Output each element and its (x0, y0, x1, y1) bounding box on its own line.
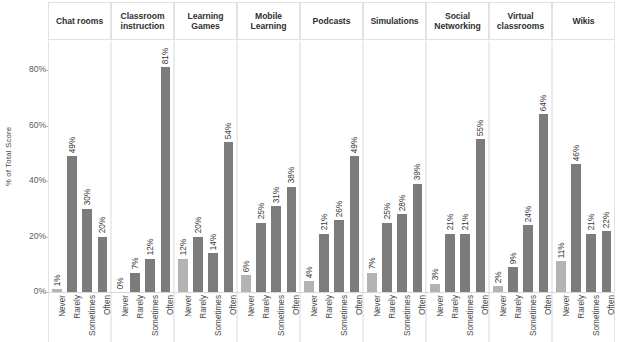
x-tick-slot: Sometimes (584, 292, 599, 342)
x-tick-slot: Rarely (379, 292, 394, 342)
bar-group: 11%46%21%22% (553, 41, 614, 292)
bar[interactable]: 7% (367, 273, 377, 292)
x-tick-slot: Never (238, 292, 253, 342)
bar[interactable]: 81% (161, 67, 171, 292)
bar[interactable]: 6% (241, 275, 251, 292)
bar[interactable]: 64% (539, 114, 549, 292)
bar-slot: 7% (364, 41, 379, 292)
bar[interactable]: 3% (430, 284, 440, 292)
bar[interactable]: 25% (256, 223, 266, 292)
y-tick-label: 40% (0, 176, 46, 185)
bar-value-label: 9% (509, 252, 517, 264)
bar-slot: 25% (379, 41, 394, 292)
bar-group: 4%21%26%49% (301, 41, 362, 292)
facet-panel: Mobile Learning6%25%31%38%NeverRarelySom… (237, 0, 300, 342)
bar[interactable]: 14% (208, 253, 218, 292)
bar[interactable]: 9% (508, 267, 518, 292)
bar[interactable]: 20% (193, 237, 203, 293)
bar[interactable]: 54% (224, 142, 234, 292)
bar-value-label: 21% (587, 214, 595, 231)
bar[interactable]: 21% (460, 234, 470, 292)
bar[interactable]: 30% (82, 209, 92, 292)
bar-slot: 9% (505, 41, 520, 292)
bar-value-label: 30% (83, 189, 91, 206)
facet-panel: Chat rooms1%49%30%20%NeverRarelySometime… (48, 0, 111, 342)
bar-value-label: 31% (272, 186, 280, 203)
bar[interactable]: 21% (445, 234, 455, 292)
x-tick-slot: Sometimes (80, 292, 95, 342)
bar[interactable]: 22% (602, 231, 612, 292)
x-tick-slot: Never (553, 292, 568, 342)
bar[interactable]: 24% (523, 225, 533, 292)
bar-slot: 12% (175, 41, 190, 292)
bar[interactable]: 7% (130, 273, 140, 292)
facet-panel-title: Learning Games (176, 11, 235, 32)
bar[interactable]: 4% (304, 281, 314, 292)
facet-panel-header: Simulations (363, 2, 426, 40)
facet-panel-title: Wikis (572, 16, 594, 26)
x-axis-baseline (48, 292, 615, 293)
bar-slot: 54% (221, 41, 236, 292)
x-tick-slot: Often (599, 292, 614, 342)
bar[interactable]: 12% (145, 259, 155, 292)
x-tick-slot: Never (490, 292, 505, 342)
y-tick-label: 80% (0, 65, 46, 74)
x-tick-slot: Rarely (253, 292, 268, 342)
facet-panel-title: Social Networking (428, 11, 487, 32)
bar-value-label: 25% (383, 203, 391, 220)
bar-slot: 30% (80, 41, 95, 292)
bar[interactable]: 25% (382, 223, 392, 292)
bar[interactable]: 21% (319, 234, 329, 292)
faceted-bar-chart: % of Total Score 0%20%40%60%80% Chat roo… (0, 0, 617, 342)
bar[interactable]: 31% (271, 206, 281, 292)
bar-value-label: 46% (572, 145, 580, 162)
bar[interactable]: 55% (476, 139, 486, 292)
y-axis: % of Total Score 0%20%40%60%80% (0, 0, 46, 342)
bar-value-label: 54% (224, 123, 232, 140)
bar-value-label: 22% (602, 211, 610, 228)
bar-value-label: 21% (320, 214, 328, 231)
bar-slot: 49% (64, 41, 79, 292)
bar-value-label: 14% (209, 234, 217, 251)
bar[interactable]: 12% (178, 259, 188, 292)
x-tick-labels: NeverRarelySometimesOften (490, 292, 551, 342)
bar-group: 12%20%14%54% (175, 41, 236, 292)
facet-plot-area: 2%9%24%64%NeverRarelySometimesOften (489, 41, 552, 342)
x-tick-slot: Rarely (190, 292, 205, 342)
facet-panel: Simulations7%25%28%39%NeverRarelySometim… (363, 0, 426, 342)
bar[interactable]: 28% (397, 214, 407, 292)
facet-panel-header: Classroom instruction (111, 2, 174, 40)
facet-panel: Classroom instruction0%7%12%81%NeverRare… (111, 0, 174, 342)
x-tick-labels: NeverRarelySometimesOften (427, 292, 488, 342)
bar[interactable]: 49% (350, 156, 360, 292)
facet-panel-header: Social Networking (426, 2, 489, 40)
x-tick-slot: Rarely (568, 292, 583, 342)
bar-value-label: 21% (461, 214, 469, 231)
bar-value-label: 12% (178, 239, 186, 256)
bar-value-label: 3% (430, 269, 438, 281)
bar[interactable]: 20% (98, 237, 108, 293)
x-tick-labels: NeverRarelySometimesOften (301, 292, 362, 342)
bar-slot: 21% (458, 41, 473, 292)
facet-panel-title: Chat rooms (56, 16, 103, 26)
x-tick-slot: Never (49, 292, 64, 342)
bar[interactable]: 21% (586, 234, 596, 292)
x-tick-slot: Rarely (316, 292, 331, 342)
bar-group: 7%25%28%39% (364, 41, 425, 292)
bar-value-label: 28% (398, 195, 406, 212)
bar-slot: 3% (427, 41, 442, 292)
bar[interactable]: 11% (556, 261, 566, 292)
bar-slot: 20% (190, 41, 205, 292)
bar[interactable]: 46% (571, 164, 581, 292)
facet-panel-header: Virtual classrooms (489, 2, 552, 40)
bar[interactable]: 49% (67, 156, 77, 292)
x-tick-slot: Often (95, 292, 110, 342)
x-tick-slot: Rarely (127, 292, 142, 342)
x-tick-slot: Often (158, 292, 173, 342)
bar-group: 3%21%21%55% (427, 41, 488, 292)
bar[interactable]: 39% (413, 184, 423, 292)
bar-group: 6%25%31%38% (238, 41, 299, 292)
bar-group: 1%49%30%20% (49, 41, 110, 292)
bar[interactable]: 26% (334, 220, 344, 292)
bar[interactable]: 38% (287, 187, 297, 292)
